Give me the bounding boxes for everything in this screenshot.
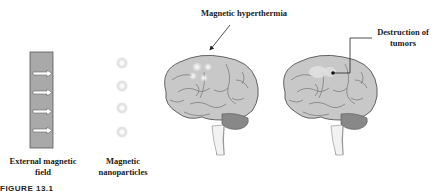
- magnetic-nanoparticles-label: Magnetic nanoparticles: [88, 156, 158, 178]
- external-magnetic-field-label: External magnetic field: [2, 156, 84, 178]
- magnetic-hyperthermia-label: Magnetic hyperthermia: [196, 8, 292, 19]
- magnetic-nanoparticles-label-line2: nanoparticles: [88, 167, 158, 178]
- brain-destruction-icon: [284, 55, 378, 155]
- external-magnetic-field-bar: [30, 52, 53, 148]
- brain-hyperthermia-icon: [165, 55, 259, 155]
- magnetic-nanoparticles-label-line1: Magnetic: [88, 156, 158, 167]
- external-magnetic-field-label-line2: field: [2, 167, 84, 178]
- figure-caption: FIGURE 13.1: [0, 184, 54, 191]
- hyperthermia-pointer-arrow: [210, 25, 230, 50]
- destruction-of-tumors-label-line2: tumors: [372, 38, 434, 49]
- destruction-of-tumors-label: Destruction of tumors: [372, 27, 434, 49]
- external-magnetic-field-label-line1: External magnetic: [2, 156, 84, 167]
- nanoparticle-icons: [115, 56, 129, 139]
- destruction-of-tumors-label-line1: Destruction of: [372, 27, 434, 38]
